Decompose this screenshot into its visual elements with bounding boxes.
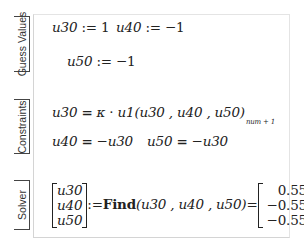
guess-u30[interactable]: u30 := 1	[52, 19, 109, 35]
constraint-eq3[interactable]: u50 = −u30	[147, 133, 228, 149]
constraint-eq2[interactable]: u40 = −u30	[52, 133, 133, 149]
guess-u40[interactable]: u40 := −1	[116, 19, 184, 35]
constraint-eq1[interactable]: u30 = κ · u1(u30 , u40 , u50)num + 1	[52, 104, 275, 126]
solver-variable-vector: u30 u40 u50	[52, 183, 87, 228]
region-label-solver: Solver	[14, 180, 30, 230]
region-label-guess-values: Guess Values	[14, 16, 30, 72]
solver-result-vector: 0.555 −0.555 −0.555	[258, 183, 304, 228]
guess-u50[interactable]: u50 := −1	[67, 53, 135, 69]
solver-find-expression[interactable]: u30 u40 u50 :=Find(u30 , u40 , u50)= 0.5…	[52, 183, 304, 228]
region-label-constraints: Constraints	[14, 99, 30, 154]
